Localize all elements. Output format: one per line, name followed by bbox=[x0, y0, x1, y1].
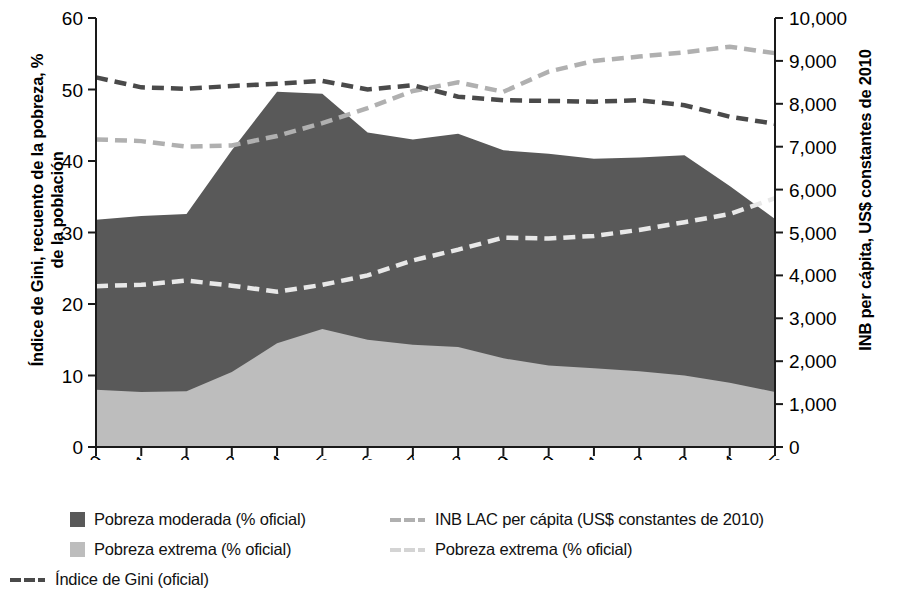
tick-label-x: 2012 bbox=[606, 451, 651, 460]
tick-label-right: 10,000 bbox=[789, 8, 847, 29]
legend-item-pobreza-moderada: Pobreza moderada (% oficial) bbox=[70, 506, 306, 532]
tick-label-right: 0 bbox=[789, 437, 800, 458]
tick-label-x: 2015 bbox=[742, 451, 787, 460]
legend-swatch-area-extreme bbox=[70, 542, 85, 557]
tick-label-x: 2008 bbox=[425, 451, 470, 460]
tick-label-right: 1,000 bbox=[789, 394, 837, 415]
tick-label-left: 0 bbox=[72, 437, 83, 458]
tick-label-left: 60 bbox=[62, 8, 83, 29]
tick-label-right: 8,000 bbox=[789, 94, 837, 115]
tick-label-x: 2014 bbox=[697, 451, 742, 460]
y-axis-right-ticks: 01,0002,0003,0004,0005,0006,0007,0008,00… bbox=[775, 8, 847, 458]
tick-label-x: 2009 bbox=[470, 451, 515, 460]
tick-label-x: 2013 bbox=[652, 451, 697, 460]
tick-label-left: 20 bbox=[62, 294, 83, 315]
legend-swatch-dashed-inb-lac bbox=[390, 512, 426, 527]
legend-swatch-area-moderate bbox=[70, 512, 85, 527]
plot-area: 0102030405060 01,0002,0003,0004,0005,000… bbox=[0, 0, 898, 460]
tick-label-x: 2002 bbox=[154, 451, 199, 460]
legend-label-pobreza-extrema-area: Pobreza extrema (% oficial) bbox=[94, 540, 291, 559]
tick-label-left: 40 bbox=[62, 151, 83, 172]
legend-swatch-dashed-gini bbox=[10, 572, 46, 587]
legend-label-pobreza-extrema-line: Pobreza extrema (% oficial) bbox=[435, 540, 632, 559]
line-indice-gini bbox=[96, 77, 775, 123]
tick-label-x: 2011 bbox=[562, 451, 606, 460]
legend-label-indice-gini: Índice de Gini (oficial) bbox=[55, 570, 209, 589]
tick-label-x: 2000 bbox=[63, 451, 108, 460]
tick-label-x: 2001 bbox=[108, 451, 153, 460]
chart-figure: Índice de Gini, recuento de la pobreza, … bbox=[0, 0, 898, 609]
tick-label-right: 6,000 bbox=[789, 180, 837, 201]
legend-item-indice-gini: Índice de Gini (oficial) bbox=[10, 566, 209, 592]
tick-label-left: 30 bbox=[62, 223, 83, 244]
legend-item-pobreza-extrema-area: Pobreza extrema (% oficial) bbox=[70, 536, 291, 562]
tick-label-x: 2005 bbox=[289, 451, 334, 460]
y-axis-left-ticks: 0102030405060 bbox=[62, 8, 96, 458]
legend-item-pobreza-extrema-line: Pobreza extrema (% oficial) bbox=[390, 536, 632, 562]
tick-label-right: 7,000 bbox=[789, 137, 837, 158]
tick-label-right: 3,000 bbox=[789, 308, 837, 329]
chart-legend: Pobreza moderada (% oficial) Pobreza ext… bbox=[60, 506, 890, 606]
legend-label-inb-lac: INB LAC per cápita (US$ constantes de 20… bbox=[435, 510, 764, 529]
tick-label-right: 5,000 bbox=[789, 223, 837, 244]
tick-label-right: 4,000 bbox=[789, 265, 837, 286]
chart-svg: 0102030405060 01,0002,0003,0004,0005,000… bbox=[0, 0, 898, 460]
tick-label-right: 2,000 bbox=[789, 351, 837, 372]
tick-label-x: 2010 bbox=[516, 451, 561, 460]
tick-label-x: 2004 bbox=[244, 451, 289, 460]
line-inb-lac bbox=[96, 47, 775, 147]
tick-label-left: 10 bbox=[62, 366, 83, 387]
legend-item-inb-lac: INB LAC per cápita (US$ constantes de 20… bbox=[390, 506, 764, 532]
tick-label-x: 2006 bbox=[335, 451, 380, 460]
legend-label-pobreza-moderada: Pobreza moderada (% oficial) bbox=[94, 510, 306, 529]
x-axis-ticks: 2000200120022003200420052006200720082009… bbox=[63, 447, 787, 460]
tick-label-x: 2003 bbox=[199, 451, 244, 460]
tick-label-x: 2007 bbox=[380, 451, 425, 460]
legend-swatch-dashed-pobreza-extrema bbox=[390, 542, 426, 557]
tick-label-left: 50 bbox=[62, 80, 83, 101]
tick-label-right: 9,000 bbox=[789, 51, 837, 72]
